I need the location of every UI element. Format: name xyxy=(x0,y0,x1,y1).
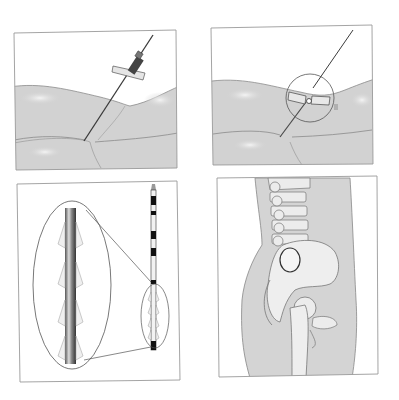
figure-canvas xyxy=(0,0,399,400)
spine-icon xyxy=(268,178,310,246)
femur-icon xyxy=(290,305,308,378)
graduated-catheter-icon xyxy=(151,184,156,350)
panel-catheter-detail xyxy=(17,181,180,382)
